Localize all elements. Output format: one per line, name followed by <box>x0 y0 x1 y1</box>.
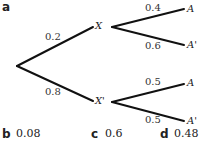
node-a-upper: A <box>187 4 194 14</box>
answer-b: 0.08 <box>16 128 41 139</box>
node-a-prime-upper: A' <box>187 40 197 50</box>
part-a-label: a <box>2 1 10 13</box>
prob-x-prime-a: 0.5 <box>145 77 161 87</box>
prob-x-a-prime: 0.6 <box>145 41 161 51</box>
prob-root-x: 0.2 <box>45 32 61 42</box>
prob-x-prime-a-prime: 0.5 <box>145 115 161 125</box>
answer-d: 0.48 <box>174 128 199 139</box>
prob-root-x-prime: 0.8 <box>45 87 61 97</box>
part-c-label: c <box>91 128 98 140</box>
node-a-prime-lower: A' <box>187 116 197 126</box>
prob-x-a: 0.4 <box>145 3 161 13</box>
answer-c: 0.6 <box>105 128 123 139</box>
part-b-label: b <box>2 128 11 140</box>
node-x: X <box>95 21 102 31</box>
node-x-prime: X' <box>95 96 105 106</box>
node-a-lower: A <box>187 78 194 88</box>
part-d-label: d <box>160 128 169 140</box>
